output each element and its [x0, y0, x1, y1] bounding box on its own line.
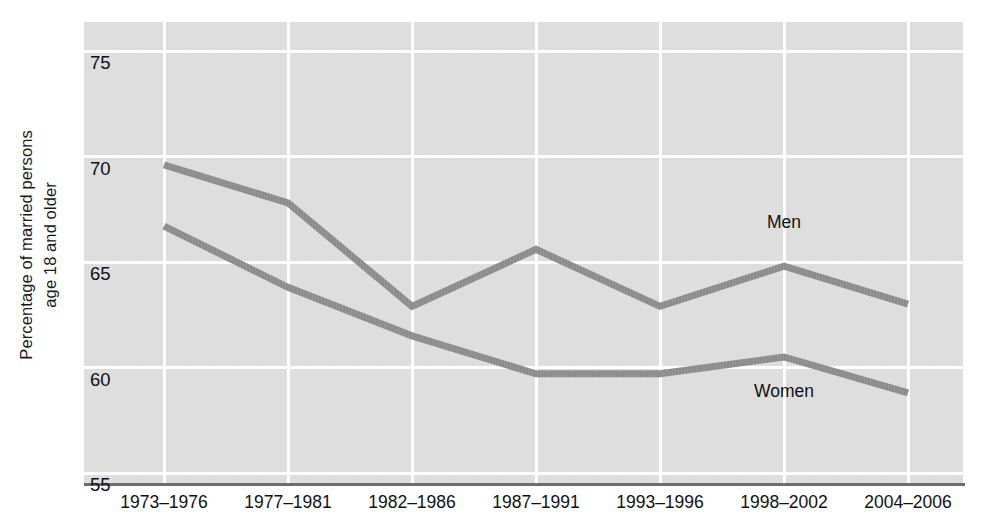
- x-axis-tick-label: 1982–1986: [368, 492, 456, 513]
- x-axis-tick-label: 1998–2002: [740, 492, 828, 513]
- chart-figure: Percentage of married persons age 18 and…: [0, 0, 998, 532]
- x-axis-tick-label: 1977–1981: [244, 492, 332, 513]
- series-label-women: Women: [754, 380, 814, 401]
- x-axis-tick-label: 1973–1976: [120, 492, 208, 513]
- y-axis-tick-label: 70: [90, 158, 111, 180]
- series-lines: [84, 22, 963, 483]
- x-axis-tick-label: 1987–1991: [492, 492, 580, 513]
- plot-area: [84, 22, 963, 483]
- y-axis-title-text: Percentage of married persons age 18 and…: [15, 130, 63, 359]
- x-axis-tick-label: 2004–2006: [864, 492, 952, 513]
- series-label-men: Men: [767, 211, 801, 232]
- y-axis-tick-label: 60: [90, 369, 111, 391]
- series-line-men: [164, 165, 908, 306]
- y-axis-title: Percentage of married persons age 18 and…: [0, 0, 78, 490]
- x-axis-line: [84, 483, 965, 486]
- x-axis-tick-label: 1993–1996: [616, 492, 704, 513]
- y-axis-title-line-1: Percentage of married persons: [15, 130, 39, 359]
- y-axis-tick-label: 75: [90, 52, 111, 74]
- y-axis-title-line-2: age 18 and older: [39, 130, 63, 359]
- y-axis-tick-label: 55: [90, 474, 111, 496]
- y-axis-tick-label: 65: [90, 263, 111, 285]
